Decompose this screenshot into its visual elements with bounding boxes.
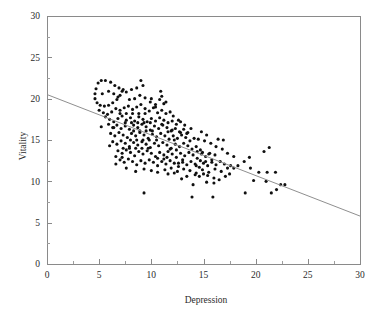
data-point [182,128,185,131]
data-point [218,178,221,181]
data-point [124,121,127,124]
data-point [107,90,110,93]
data-point [171,153,174,156]
data-point [173,162,176,165]
data-point [179,131,182,134]
data-point [173,138,176,141]
data-point [150,97,153,100]
data-point [148,110,151,113]
data-point [151,129,154,132]
data-point [163,134,166,137]
data-point [101,92,104,95]
data-point [135,138,138,141]
data-point [136,143,139,146]
data-point [147,147,150,150]
data-point [145,129,148,132]
data-point [173,172,176,175]
data-point [158,98,161,101]
data-point [187,151,190,154]
data-point [145,143,148,146]
data-point [177,165,180,168]
data-point [124,142,127,145]
data-point [205,133,208,136]
data-point [156,111,159,114]
data-point [152,161,155,164]
data-point [110,110,113,113]
data-point [175,123,178,126]
data-point [221,148,224,151]
y-tick-label: 0 [35,259,40,269]
data-point [162,157,165,160]
data-point [175,148,178,151]
data-point [154,105,157,108]
data-point [157,127,160,130]
data-point [121,114,124,117]
data-point [149,100,152,103]
data-point [164,162,167,165]
data-point [102,111,105,114]
data-point [214,145,217,148]
data-point [190,195,193,198]
data-point [114,107,117,110]
data-point [141,153,144,156]
data-point [220,170,223,173]
data-point [177,119,180,122]
data-point [159,132,162,135]
data-point [236,164,239,167]
data-point [131,160,134,163]
data-point [160,160,163,163]
data-point [132,129,135,132]
data-point [133,97,136,100]
data-point [283,183,286,186]
data-point [185,163,188,166]
data-point [141,138,144,141]
data-point [182,142,185,145]
data-point [164,100,167,103]
data-point [248,156,251,159]
data-point [162,153,165,156]
data-point [193,137,196,140]
plot-canvas: 051015202530 051015202530 Depression Vit… [0,0,385,317]
data-point [181,158,184,161]
data-point [113,84,116,87]
data-point [137,112,140,115]
data-point [118,158,121,161]
data-point [224,175,227,178]
data-point [104,79,107,82]
data-point [266,171,269,174]
data-point [123,161,126,164]
data-point [205,181,208,184]
data-point [183,124,186,127]
data-point [98,109,101,112]
data-point [118,109,121,112]
data-point [142,167,145,170]
data-point [142,133,145,136]
data-point [93,97,96,100]
data-point [137,150,140,153]
data-point [213,153,216,156]
data-point [209,142,212,145]
data-point [198,166,201,169]
data-point [172,134,175,137]
data-point [117,86,120,89]
x-tick-label: 25 [303,270,313,280]
data-point [194,173,197,176]
data-point [120,139,123,142]
x-tick-label: 10 [147,270,157,280]
data-point [112,92,115,95]
data-point [226,152,229,155]
data-point [172,114,175,117]
data-point [144,107,147,110]
data-point [206,174,209,177]
data-point [166,130,169,133]
data-point [139,79,142,82]
data-point [212,176,215,179]
data-point [177,162,180,165]
data-point [148,158,151,161]
data-point [222,138,225,141]
data-point [126,136,129,139]
data-point [182,167,185,170]
data-point [140,147,143,150]
data-point [160,109,163,112]
data-point [249,167,252,170]
